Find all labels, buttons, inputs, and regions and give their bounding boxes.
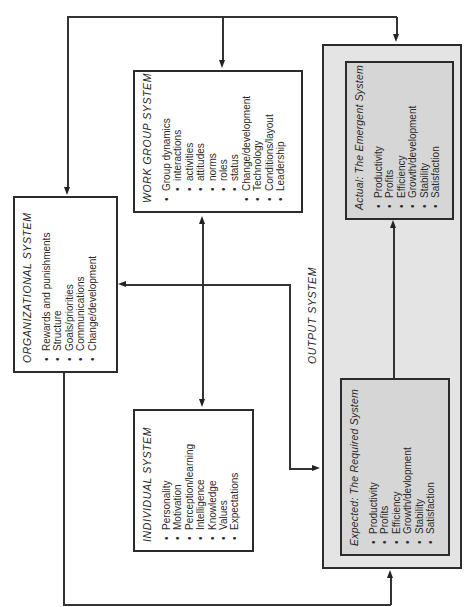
list-item: Expectations [229,415,240,542]
list-item: Productivity [368,384,379,546]
list-item: Goals/priorities [64,202,75,363]
list-item: Satisfaction [425,384,436,546]
list-subitem: activities [184,76,195,203]
list-item: Productivity [373,67,384,210]
connector-top-horizontal [67,16,397,18]
expected-required-system-content: Expected: The Required System Productivi… [342,376,452,554]
actual-emergent-system-list: Productivity Profits Efficiency Growth/d… [373,67,441,210]
connector-top-to-workgroup [222,17,224,61]
list-item: Change/development [87,202,98,363]
list-item: Growth/development [407,67,418,210]
list-subitem: status [229,76,240,203]
connector-org-bottom-vertical [63,372,65,605]
work-group-system-list: Group dynamics interactions activities a… [161,76,286,203]
list-item: Satisfaction [430,67,441,210]
organizational-system-list: Rewards and punishments Structure Goals/… [41,202,98,363]
connector-top-to-output [396,17,398,35]
actual-emergent-system-title: Actual: The Emergent System [353,67,365,210]
arrow-into-output-left [312,465,320,471]
list-item: Rewards and punishments [41,202,52,363]
list-subitem: roles [218,76,229,203]
arrow-up-to-workgroup [199,216,205,224]
individual-system-box: INDIVIDUAL SYSTEM Personality Motivation… [133,409,254,552]
organizational-system-title: ORGANIZATIONAL SYSTEM [21,202,33,363]
arrow-into-actual [390,220,396,228]
list-subitem: interactions [172,76,183,203]
list-item: Technology [252,76,263,203]
list-item: Growth/devlopment [402,384,413,546]
list-subitem: norms [207,76,218,203]
arrow-into-output-top [393,34,399,42]
work-group-system-content: WORK GROUP SYSTEM Group dynamics interac… [135,68,305,211]
expected-required-system-list: Productivity Profits Efficiency Growth/d… [368,384,436,546]
list-item: Knowledge [207,415,218,542]
work-group-system-box: WORK GROUP SYSTEM Group dynamics interac… [133,70,303,213]
actual-emergent-system-content: Actual: The Emergent System Productivity… [347,59,456,218]
list-item: Leadership [275,76,286,203]
individual-system-list: Personality Motivation Perception/learni… [161,415,241,542]
connector-feedback-horizontal [126,284,290,286]
list-item: Stability [419,67,430,210]
list-item: Structure [52,202,63,363]
list-item: Stability [414,384,425,546]
connector-top-left-vertical [67,17,69,187]
connector-to-expected [289,468,313,470]
list-item: Change/development [241,76,252,203]
connector-bottom-to-output [390,578,392,605]
output-system-title: OUTPUT SYSTEM [306,267,318,364]
list-item: Perception/learning [184,415,195,542]
connector-feedback-vertical [289,284,291,468]
individual-system-title: INDIVIDUAL SYSTEM [141,415,153,542]
list-item: Conditions/layout [264,76,275,203]
list-item: Efficiency [391,384,402,546]
organizational-system-content: ORGANIZATIONAL SYSTEM Rewards and punish… [15,194,120,371]
list-item: Profits [384,67,395,210]
arrow-into-workgroup [219,60,225,68]
list-item: Personality [161,415,172,542]
connector-expected-to-actual [393,226,395,378]
work-group-system-title: WORK GROUP SYSTEM [141,76,153,203]
connector-bottom-horizontal [63,604,391,606]
individual-system-content: INDIVIDUAL SYSTEM Personality Motivation… [135,407,256,550]
list-item: Profits [379,384,390,546]
list-item: Motivation [172,415,183,542]
expected-required-system-box: Expected: The Required System Productivi… [340,378,450,556]
list-item: Group dynamics [161,76,172,203]
list-item: Communications [75,202,86,363]
actual-emergent-system-box: Actual: The Emergent System Productivity… [345,61,454,220]
connector-workgroup-individual [202,222,204,400]
list-item: Efficiency [396,67,407,210]
organizational-system-box: ORGANIZATIONAL SYSTEM Rewards and punish… [13,196,118,373]
arrow-down-to-individual [199,399,205,407]
list-item: Values [218,415,229,542]
list-item: Intelligence [195,415,206,542]
list-subitem: attitudes [195,76,206,203]
arrow-into-output-bottom [387,570,393,578]
expected-required-system-title: Expected: The Required System [348,384,360,546]
